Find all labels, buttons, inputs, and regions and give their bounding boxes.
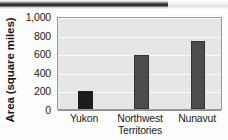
plot-area (57, 17, 222, 110)
y-axis-tick-labels: 02004006008001,000 (18, 17, 54, 110)
y-axis-tick-label: 200 (34, 85, 51, 97)
x-axis-tick-label-line: Territories (117, 124, 162, 136)
x-axis-tick-label-line: Nunavut (178, 112, 216, 124)
y-axis-tick-label: 800 (34, 30, 51, 42)
axis-baseline (58, 110, 221, 111)
scan-artifact-band-right (168, 0, 228, 9)
x-axis-tick-label: Yukon (70, 112, 98, 124)
y-axis-tick-label: 0 (45, 104, 51, 116)
x-axis-tick-label: NorthwestTerritories (117, 112, 162, 136)
x-axis-tick-label: Nunavut (178, 112, 216, 124)
y-axis-tick-label: 1,000 (26, 11, 51, 23)
bar-chart-figure: Area (square miles) 02004006008001,000 Y… (0, 0, 228, 140)
bar (78, 91, 93, 109)
x-axis-tick-label-line: Northwest (117, 112, 162, 124)
y-axis-title-container: Area (square miles) (0, 14, 20, 126)
y-axis-title: Area (square miles) (4, 18, 16, 123)
x-axis-tick-labels: YukonNorthwestTerritoriesNunavut (57, 112, 222, 140)
x-axis-tick-label-line: Yukon (70, 112, 98, 124)
bar (134, 55, 149, 109)
bar (191, 41, 205, 109)
y-axis-tick-label: 600 (34, 48, 51, 60)
y-axis-tick-label: 400 (34, 67, 51, 79)
bar-series (58, 18, 221, 109)
